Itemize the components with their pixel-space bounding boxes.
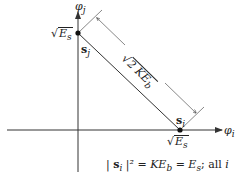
vertical-value-label: √Es <box>51 27 73 42</box>
dimension-line-lower <box>165 83 196 113</box>
point-si-label: si <box>176 115 185 129</box>
horizontal-axis-label: φi <box>224 125 235 139</box>
vertical-axis-label: φj <box>75 1 86 15</box>
distance-segment <box>78 33 180 130</box>
horizontal-value-label: √Es <box>167 135 189 150</box>
point-sj-label: sj <box>81 44 90 58</box>
dimension-line-upper <box>97 18 125 45</box>
point-sj <box>75 30 80 35</box>
energy-equation: | si |² = KEb = Es; all i <box>106 159 229 173</box>
